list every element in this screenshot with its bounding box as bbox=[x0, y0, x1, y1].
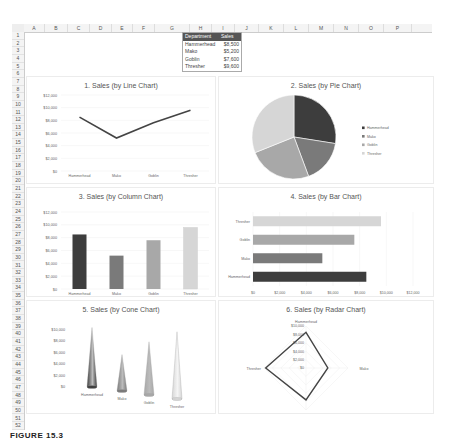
row-header-12[interactable]: 12 bbox=[12, 116, 24, 124]
column-header-i[interactable]: I bbox=[212, 24, 235, 32]
row-header-48[interactable]: 48 bbox=[12, 392, 24, 400]
column-header-g[interactable]: G bbox=[155, 24, 190, 32]
column-header-c[interactable]: C bbox=[68, 24, 90, 32]
row-header-46[interactable]: 46 bbox=[12, 376, 24, 384]
column-header-b[interactable]: B bbox=[45, 24, 68, 32]
column-header-e[interactable]: E bbox=[112, 24, 133, 32]
x-tick-label: Mako bbox=[112, 292, 121, 296]
row-header-7[interactable]: 7 bbox=[12, 78, 24, 86]
row-header-3[interactable]: 3 bbox=[12, 47, 24, 55]
row-header-42[interactable]: 42 bbox=[12, 346, 24, 354]
cell-department[interactable]: Mako bbox=[183, 48, 221, 56]
column-header-j[interactable]: J bbox=[235, 24, 259, 32]
row-header-39[interactable]: 39 bbox=[12, 323, 24, 331]
row-header-15[interactable]: 15 bbox=[12, 139, 24, 147]
column-header-p[interactable]: P bbox=[384, 24, 412, 32]
column-header-l[interactable]: L bbox=[284, 24, 309, 32]
column-header-h[interactable]: H bbox=[190, 24, 212, 32]
pie-slice-hammerhead bbox=[294, 95, 336, 144]
row-header-19[interactable]: 19 bbox=[12, 170, 24, 178]
cone-chart[interactable]: 5. Sales (by Cone Chart) $0$2,000$4,000$… bbox=[26, 300, 216, 414]
row-header-6[interactable]: 6 bbox=[12, 70, 24, 78]
row-header-23[interactable]: 23 bbox=[12, 200, 24, 208]
cell-sales[interactable]: $5,200 bbox=[221, 48, 241, 56]
row-header-20[interactable]: 20 bbox=[12, 177, 24, 185]
category-label: Thresher bbox=[247, 367, 262, 371]
row-header-2[interactable]: 2 bbox=[12, 40, 24, 48]
row-header-40[interactable]: 40 bbox=[12, 330, 24, 338]
row-header-30[interactable]: 30 bbox=[12, 254, 24, 262]
row-header-27[interactable]: 27 bbox=[12, 231, 24, 239]
cell-department[interactable]: Goblin bbox=[183, 56, 221, 64]
column-header-a[interactable]: A bbox=[24, 24, 45, 32]
row-header-50[interactable]: 50 bbox=[12, 407, 24, 415]
row-header-29[interactable]: 29 bbox=[12, 246, 24, 254]
row-header-24[interactable]: 24 bbox=[12, 208, 24, 216]
row-header-8[interactable]: 8 bbox=[12, 86, 24, 94]
row-header-5[interactable]: 5 bbox=[12, 63, 24, 71]
row-header-51[interactable]: 51 bbox=[12, 415, 24, 423]
sales-line bbox=[80, 110, 191, 138]
row-header-32[interactable]: 32 bbox=[12, 269, 24, 277]
column-header-f[interactable]: F bbox=[133, 24, 155, 32]
cell-department[interactable]: Thresher bbox=[183, 63, 221, 71]
cone-hammerhead bbox=[87, 328, 97, 388]
row-header-18[interactable]: 18 bbox=[12, 162, 24, 170]
table-row: Thresher $9,600 bbox=[183, 63, 241, 71]
row-header-4[interactable]: 4 bbox=[12, 55, 24, 63]
pie-chart[interactable]: 2. Sales (by Pie Chart) HammerheadMakoGo… bbox=[218, 76, 434, 184]
column-header-n[interactable]: N bbox=[334, 24, 359, 32]
header-sales[interactable]: Sales bbox=[221, 33, 241, 41]
row-header-10[interactable]: 10 bbox=[12, 101, 24, 109]
y-tick-label: $2,000 bbox=[45, 157, 57, 161]
row-header-9[interactable]: 9 bbox=[12, 93, 24, 101]
column-chart[interactable]: 3. Sales (by Column Chart) $0$2,000$4,00… bbox=[26, 187, 216, 297]
row-header-43[interactable]: 43 bbox=[12, 353, 24, 361]
row-header-1[interactable]: 1 bbox=[12, 32, 24, 40]
row-header-26[interactable]: 26 bbox=[12, 223, 24, 231]
cell-sales[interactable]: $9,600 bbox=[221, 63, 241, 71]
cell-sales[interactable]: $8,500 bbox=[221, 41, 241, 49]
row-header-45[interactable]: 45 bbox=[12, 369, 24, 377]
column-header-k[interactable]: K bbox=[259, 24, 284, 32]
row-header-25[interactable]: 25 bbox=[12, 216, 24, 224]
column-header-m[interactable]: M bbox=[309, 24, 334, 32]
header-department[interactable]: Department bbox=[183, 33, 221, 41]
row-header-47[interactable]: 47 bbox=[12, 384, 24, 392]
row-header-22[interactable]: 22 bbox=[12, 193, 24, 201]
y-tick-label: $2,000 bbox=[45, 275, 57, 279]
row-header-13[interactable]: 13 bbox=[12, 124, 24, 132]
row-header-38[interactable]: 38 bbox=[12, 315, 24, 323]
cone-base bbox=[172, 398, 182, 401]
bar-chart[interactable]: 4. Sales (by Bar Chart) $0$2,000$4,000$6… bbox=[218, 187, 434, 297]
legend-label: Goblin bbox=[367, 143, 377, 147]
row-header-52[interactable]: 52 bbox=[12, 422, 24, 430]
row-header-28[interactable]: 28 bbox=[12, 239, 24, 247]
row-header-14[interactable]: 14 bbox=[12, 131, 24, 139]
row-header-35[interactable]: 35 bbox=[12, 292, 24, 300]
radar-chart[interactable]: 6. Sales (by Radar Chart) $0$2,000$4,000… bbox=[218, 300, 434, 414]
row-header-44[interactable]: 44 bbox=[12, 361, 24, 369]
cell-sales[interactable]: $7,600 bbox=[221, 56, 241, 64]
row-header-31[interactable]: 31 bbox=[12, 262, 24, 270]
column-header-d[interactable]: D bbox=[90, 24, 112, 32]
y-tick-label: Mako bbox=[241, 257, 250, 261]
row-header-36[interactable]: 36 bbox=[12, 300, 24, 308]
row-header-21[interactable]: 21 bbox=[12, 185, 24, 193]
table-row: Mako $5,200 bbox=[183, 48, 241, 56]
row-header-41[interactable]: 41 bbox=[12, 338, 24, 346]
y-tick-label: $4,000 bbox=[45, 144, 57, 148]
line-chart[interactable]: 1. Sales (by Line Chart) $0$2,000$4,000$… bbox=[26, 76, 216, 184]
row-header-11[interactable]: 11 bbox=[12, 109, 24, 117]
row-header-34[interactable]: 34 bbox=[12, 284, 24, 292]
y-tick-label: $4,000 bbox=[45, 262, 57, 266]
row-header-17[interactable]: 17 bbox=[12, 154, 24, 162]
row-header-16[interactable]: 16 bbox=[12, 147, 24, 155]
column-header-o[interactable]: O bbox=[359, 24, 384, 32]
row-header-33[interactable]: 33 bbox=[12, 277, 24, 285]
cell-department[interactable]: Hammerhead bbox=[183, 41, 221, 49]
row-header-49[interactable]: 49 bbox=[12, 399, 24, 407]
row-headers: 1234567891011121314151617181920212223242… bbox=[12, 32, 25, 430]
cone-base bbox=[87, 386, 97, 389]
row-header-37[interactable]: 37 bbox=[12, 307, 24, 315]
